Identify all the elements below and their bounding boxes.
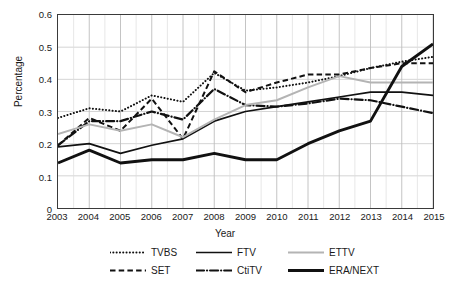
- legend-item-ctitv[interactable]: CtiTV: [196, 261, 288, 279]
- legend-item-tvbs[interactable]: TVBS: [110, 243, 196, 261]
- legend-line-swatch: [110, 265, 146, 276]
- legend-label: ERA/NEXT: [329, 265, 379, 276]
- plot-area: [57, 14, 434, 209]
- legend-label: FTV: [237, 247, 256, 258]
- legend-item-ettv[interactable]: ETTV: [288, 243, 400, 261]
- legend-item-era-next[interactable]: ERA/NEXT: [288, 261, 400, 279]
- legend-line-swatch: [288, 265, 324, 276]
- y-tick-label: 0.2: [8, 140, 52, 149]
- series-line-ettv: [58, 76, 433, 137]
- series-lines: [58, 15, 433, 208]
- legend-line-swatch: [288, 247, 324, 258]
- y-axis-title: Percentage: [13, 32, 24, 132]
- series-line-era-next: [58, 44, 433, 163]
- legend-label: SET: [151, 265, 170, 276]
- y-tick-label: 0.1: [8, 172, 52, 181]
- legend-item-ftv[interactable]: FTV: [196, 243, 288, 261]
- y-tick-label: 0.6: [8, 10, 52, 19]
- series-line-ctitv: [58, 89, 433, 145]
- legend-label: ETTV: [329, 247, 355, 258]
- line-chart-figure: 00.10.20.30.40.50.6200320042005200620072…: [0, 0, 450, 285]
- chart-legend: TVBSFTVETTVSETCtiTVERA/NEXT: [110, 243, 400, 279]
- legend-label: CtiTV: [237, 265, 262, 276]
- legend-line-swatch: [110, 247, 146, 258]
- legend-line-swatch: [196, 247, 232, 258]
- legend-line-swatch: [196, 265, 232, 276]
- x-axis-title: Year: [0, 228, 450, 239]
- legend-label: TVBS: [151, 247, 177, 258]
- legend-item-set[interactable]: SET: [110, 261, 196, 279]
- x-tick-label: 2015: [414, 212, 450, 222]
